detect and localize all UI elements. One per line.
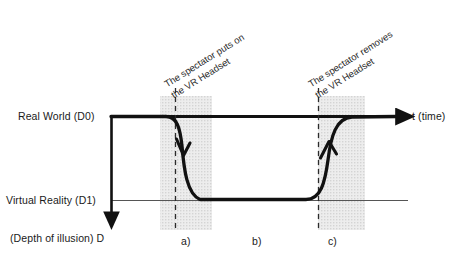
diagram-canvas: Real World (D0) Virtual Reality (D1) (De… bbox=[0, 0, 452, 264]
zone-label-a: a) bbox=[181, 235, 191, 247]
axis-label-depth-of-illusion: (Depth of illusion) D bbox=[10, 232, 104, 244]
axis-label-virtual-reality: Virtual Reality (D1) bbox=[6, 194, 96, 206]
zone-label-c: c) bbox=[328, 235, 337, 247]
axis-label-real-world: Real World (D0) bbox=[18, 110, 95, 122]
axis-label-time: t (time) bbox=[412, 110, 445, 122]
zone-label-b: b) bbox=[252, 235, 262, 247]
